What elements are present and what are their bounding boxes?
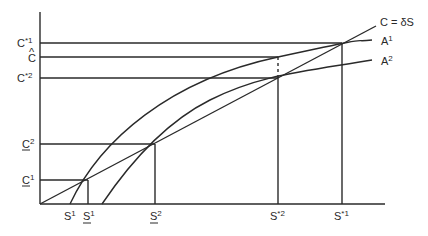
label-c-hat: C [28, 52, 36, 64]
label-s-under-1: S1 [83, 209, 95, 222]
label-s-1: S1 [64, 209, 76, 222]
curve-a1 [70, 40, 372, 204]
label-c-star-2: C*2 [17, 71, 33, 84]
label-s-star-1: S*1 [334, 209, 349, 222]
label-c-under-1: C1 [22, 173, 35, 186]
economics-diagram: C = δS A1 A2 C*1 ^ C C*2 C2 C1 S1 S1 S2 … [0, 0, 428, 236]
label-a2: A2 [381, 54, 393, 67]
label-s-star-2: S*2 [270, 209, 285, 222]
label-c-delta-s: C = δS [380, 16, 414, 28]
label-s-under-2: S2 [150, 209, 162, 222]
label-c-under-2: C2 [22, 137, 35, 150]
label-a1: A1 [381, 34, 393, 47]
curve-a2 [102, 60, 372, 204]
line-c-delta-s [40, 26, 376, 204]
